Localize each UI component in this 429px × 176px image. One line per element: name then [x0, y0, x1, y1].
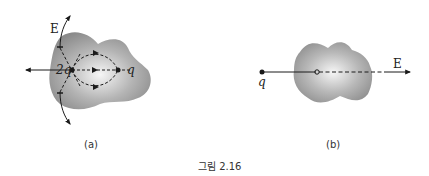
figure-caption: 그림 2.16: [198, 161, 241, 172]
charge-q-label: q: [127, 63, 135, 77]
panel-label-a: (a): [84, 139, 98, 150]
figure-canvas: 2q q E (a) q E (b) 그림 2.16: [0, 0, 429, 176]
charge-2q-label: 2q: [55, 63, 72, 77]
charge-q-dot: [116, 68, 121, 73]
charge-q-dot-b: [260, 70, 265, 75]
charge-q-label-b: q: [258, 75, 266, 89]
field-label-e-b: E: [393, 57, 402, 71]
panel-b: q E (b): [258, 42, 410, 150]
panel-a: 2q q E (a): [26, 16, 151, 150]
panel-label-b: (b): [326, 139, 340, 150]
field-label-e: E: [50, 22, 59, 36]
